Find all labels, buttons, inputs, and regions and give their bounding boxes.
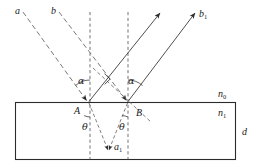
point-A-text: A (74, 105, 80, 116)
angle-theta-left-label: θ (82, 122, 88, 132)
refracted-ray-a1-label: a1 (114, 142, 122, 152)
thickness-d-text: d (242, 126, 247, 137)
n1-subscript: 1 (223, 112, 226, 119)
point-B-label: B (136, 108, 142, 118)
angle-alpha-left-label: α (78, 76, 84, 86)
angle-theta-right-label: θ (119, 122, 125, 132)
incident-ray-a-line (23, 12, 87, 101)
thickness-d-label: d (242, 127, 247, 137)
ray-a1-subscript: 1 (119, 146, 122, 153)
point-B-text: B (136, 107, 142, 118)
ray-b-text: b (51, 5, 56, 16)
medium-n0-label: n0 (218, 89, 226, 99)
ray-b1-subscript: 1 (204, 13, 207, 20)
ray-diagram-figure: a b b1 a1 A B α α θ θ n0 n1 d (0, 0, 254, 168)
reflected-ray-at-A-line (89, 13, 160, 102)
point-A-label: A (74, 106, 80, 116)
alpha-right-text: α (128, 75, 134, 86)
alpha-left-text: α (78, 75, 84, 86)
reflected-ray-b1-label: b1 (199, 9, 207, 19)
medium-n1-label: n1 (218, 108, 226, 118)
incident-ray-a-label: a (15, 6, 20, 16)
reflected-ray-b1-line (128, 13, 195, 102)
incident-ray-b-line (59, 12, 127, 101)
diagram-canvas (0, 0, 254, 168)
angle-alpha-right-label: α (128, 76, 134, 86)
ray-a-text: a (15, 5, 20, 16)
incident-ray-b-label: b (51, 6, 56, 16)
n0-subscript: 0 (223, 93, 226, 100)
theta-right-text: θ (119, 121, 125, 132)
theta-left-text: θ (82, 121, 88, 132)
film-slab-rectangle (16, 103, 236, 160)
